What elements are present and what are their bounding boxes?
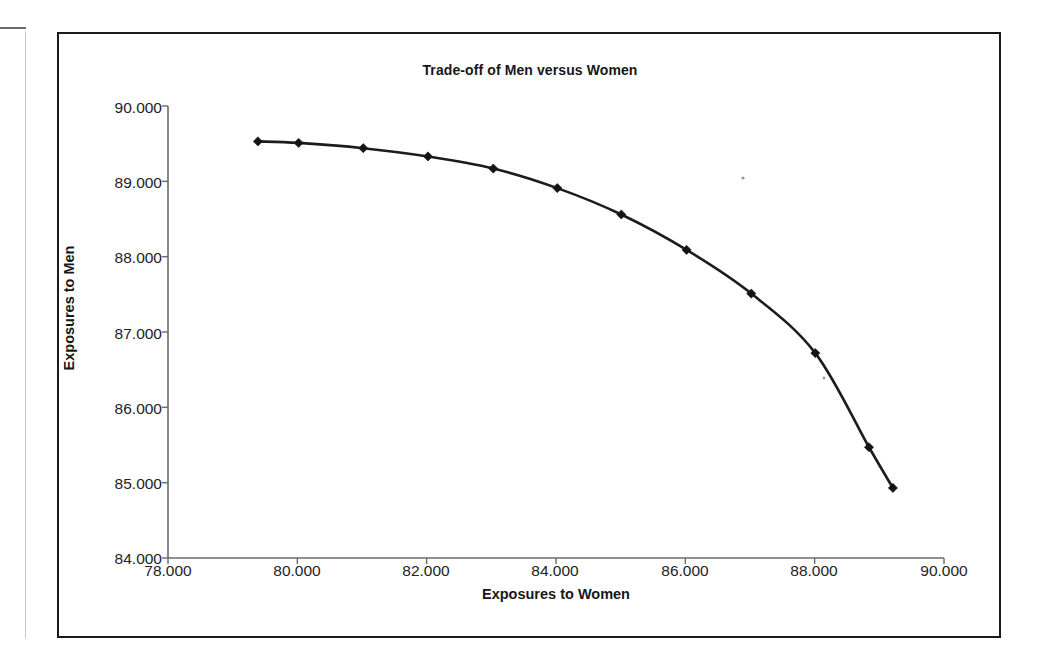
data-point-marker [747,289,756,298]
x-tick-label: 86.000 [640,562,730,580]
data-point-marker [682,245,691,254]
x-tick-label: 84.000 [510,562,600,580]
x-tick-label: 80.000 [252,562,342,580]
data-point-marker [423,152,432,161]
x-tick-label: 88.000 [769,562,859,580]
data-point-marker [294,138,303,147]
data-point-marker [253,137,262,146]
chart-plot-stage: Trade-off of Men versus Women Exposures … [0,0,1049,658]
y-tick-label: 85.000 [88,475,162,493]
x-tick-label: 90.000 [899,562,989,580]
y-tick-label: 87.000 [88,325,162,343]
data-point-marker [811,348,820,357]
scan-speck [741,176,744,179]
data-point-marker [553,184,562,193]
x-axis-title: Exposures to Women [168,586,944,602]
y-tick-label: 86.000 [88,400,162,418]
scan-speck [823,377,826,380]
series-line-trade-off [258,141,893,488]
data-point-marker [489,164,498,173]
y-tick-label: 89.000 [88,174,162,192]
series-markers [253,137,897,493]
data-point-marker [888,483,897,492]
chart-axes [168,106,944,558]
y-axis-title: Exposures to Men [61,208,77,408]
chart-title: Trade-off of Men versus Women [100,62,960,78]
chart-series [253,137,897,493]
data-point-marker [864,443,873,452]
chart-tick-marks [162,106,944,564]
y-tick-label: 90.000 [88,99,162,117]
x-tick-label: 78.000 [123,562,213,580]
x-tick-label: 82.000 [381,562,471,580]
data-point-marker [359,144,368,153]
y-tick-label: 88.000 [88,249,162,267]
data-point-marker [617,210,626,219]
